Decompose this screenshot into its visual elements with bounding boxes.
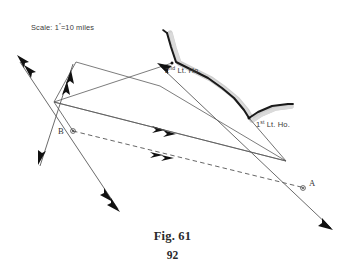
- point-marker-a: [301, 186, 306, 191]
- baseline-a-to-b: [73, 131, 305, 188]
- converging-rays: [54, 62, 286, 161]
- figure-caption: Fig. 61: [0, 229, 345, 244]
- page-number: 92: [0, 249, 345, 261]
- bearing-ray-northeast-southwest: [38, 64, 74, 166]
- scale-note: Scale: 1″=10 miles: [31, 22, 94, 32]
- point-marker-lighthouse-2: [171, 62, 174, 65]
- navigation-diagram: Scale: 1″=10 miles 2nd Lt. Ho. 1st Lt. H…: [0, 0, 345, 267]
- label-point-b: B: [58, 126, 64, 136]
- coastline-shading: [170, 33, 292, 121]
- label-lighthouse-2: 2nd Lt. Ho.: [165, 65, 201, 75]
- figure-61-container: Scale: 1″=10 miles 2nd Lt. Ho. 1st Lt. H…: [0, 0, 345, 267]
- label-point-a: A: [309, 178, 316, 188]
- label-lighthouse-2-suffix: Lt. Ho.: [175, 66, 200, 75]
- point-marker-lighthouse-1: [248, 117, 251, 120]
- bearing-ray-lighthouse2-to-point-a: [157, 63, 333, 230]
- scale-note-suffix: =10 miles: [61, 23, 94, 32]
- label-lighthouse-1-suffix: Lt. Ho.: [265, 120, 290, 129]
- scale-note-prefix: Scale: 1: [31, 23, 59, 32]
- label-lighthouse-1: 1st Lt. Ho.: [256, 119, 290, 129]
